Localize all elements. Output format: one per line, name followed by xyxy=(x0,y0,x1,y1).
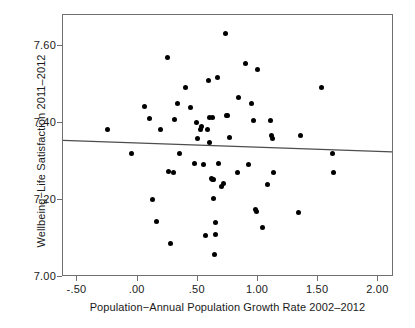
x-axis-tick xyxy=(197,276,198,281)
x-axis-tick-label: 1.50 xyxy=(306,283,328,295)
y-axis-tick xyxy=(57,276,62,277)
data-point xyxy=(246,162,251,167)
data-point xyxy=(215,75,220,80)
data-point xyxy=(203,233,208,238)
data-point xyxy=(171,170,176,175)
x-axis-tick xyxy=(257,276,258,281)
data-point xyxy=(223,31,228,36)
data-point xyxy=(175,101,180,106)
data-point xyxy=(192,161,197,166)
x-axis-title: Population−Annual Population Growth Rate… xyxy=(62,301,393,313)
x-axis-tick-label: -.50 xyxy=(67,283,87,295)
regression-line xyxy=(63,15,392,275)
data-point xyxy=(210,115,215,120)
x-axis-tick-label: .50 xyxy=(189,283,205,295)
data-point xyxy=(211,177,216,182)
data-point xyxy=(105,127,110,132)
scatter-plot-figure: -.50.00.501.001.502.00 7.007.207.407.60 … xyxy=(0,0,415,328)
regression-line-segment xyxy=(63,140,392,151)
x-axis-tick-label: 2.00 xyxy=(366,283,388,295)
x-axis-tick-label: .00 xyxy=(129,283,145,295)
data-point xyxy=(206,78,211,83)
x-axis-tick-label: 1.00 xyxy=(246,283,268,295)
data-point xyxy=(298,133,303,138)
y-axis-title: Wellbeing−Life Satisfaction 2011–2012 xyxy=(35,20,47,282)
data-point xyxy=(158,127,163,132)
y-axis-tick xyxy=(57,122,62,123)
plot-frame xyxy=(62,14,393,276)
data-point xyxy=(211,196,216,201)
y-axis-tick xyxy=(57,45,62,46)
y-axis-tick xyxy=(57,199,62,200)
data-point xyxy=(183,85,188,90)
x-axis-tick xyxy=(76,276,77,281)
data-point xyxy=(221,181,226,186)
x-axis-tick xyxy=(317,276,318,281)
data-point xyxy=(227,135,232,140)
data-point xyxy=(270,136,275,141)
x-axis-tick xyxy=(137,276,138,281)
plot-surface xyxy=(63,15,392,275)
x-axis-tick xyxy=(377,276,378,281)
data-point xyxy=(216,161,221,166)
